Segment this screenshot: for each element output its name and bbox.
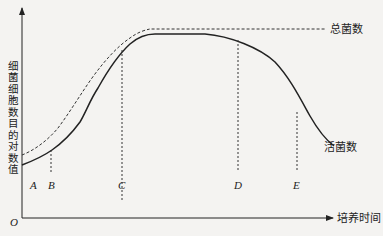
marker-label-a: A (29, 179, 37, 191)
x-axis-title: 培养时间 (337, 211, 381, 225)
total-count-label: 总菌数 (330, 22, 363, 36)
live-count-curve (22, 34, 334, 165)
marker-label-d: D (233, 179, 242, 191)
origin-label: O (10, 216, 18, 228)
live-count-label: 活菌数 (324, 141, 357, 154)
marker-label-c: C (118, 179, 126, 191)
y-axis-title: 细菌细胞数目的对数值 (6, 60, 18, 176)
marker-label-e: E (292, 179, 300, 191)
growth-curve-chart: A B C D E O 总菌数 活菌数 培养时间 细菌细胞数目的对数值 (0, 0, 383, 236)
marker-label-b: B (48, 179, 55, 191)
